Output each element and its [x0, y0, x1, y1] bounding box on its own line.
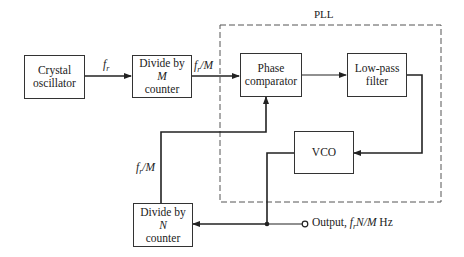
lpf-label-1: Low-pass	[355, 62, 400, 75]
phase-label-2: comparator	[245, 75, 297, 88]
diagram-wires	[0, 0, 464, 257]
divide-by-m-block: Divide by M counter	[132, 55, 192, 98]
wire-vco-out	[267, 153, 294, 224]
wire-feedback	[161, 97, 266, 203]
crystal-oscillator-block: Crystal oscillator	[24, 55, 85, 99]
divide-n-label-1: Divide by	[140, 206, 186, 219]
crystal-label-2: oscillator	[33, 77, 76, 90]
crystal-label-1: Crystal	[33, 64, 76, 77]
signal-fr-label: fr	[103, 58, 109, 73]
divide-by-n-block: Divide by N counter	[133, 203, 193, 247]
vco-block: VCO	[294, 131, 354, 174]
pll-label: PLL	[314, 8, 334, 20]
signal-feedback-label: fr/M	[136, 161, 155, 176]
vco-label: VCO	[312, 146, 336, 159]
divide-m-label-3: counter	[139, 83, 185, 96]
phase-label-1: Phase	[245, 62, 297, 75]
divide-m-label-1: Divide by	[139, 57, 185, 70]
divide-m-label-2: M	[139, 70, 185, 83]
low-pass-filter-block: Low-pass filter	[347, 53, 407, 97]
lpf-label-2: filter	[355, 75, 400, 88]
pll-boundary	[220, 25, 441, 202]
divide-n-label-2: N	[140, 219, 186, 232]
phase-comparator-block: Phase comparator	[240, 53, 302, 97]
signal-fr-over-m-label: fr/M	[194, 59, 213, 74]
divide-n-label-3: counter	[140, 232, 186, 245]
output-terminal	[302, 221, 308, 227]
output-label: Output, frN/M Hz	[312, 216, 393, 231]
